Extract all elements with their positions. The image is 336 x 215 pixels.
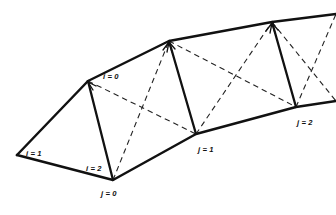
cell1-diagonal-a xyxy=(169,41,296,107)
rib-group xyxy=(88,22,296,180)
label-i-1: i = 1 xyxy=(26,149,42,158)
arrowhead-to-t2-left xyxy=(266,23,272,33)
label-i-0: i = 0 xyxy=(103,72,119,81)
label-j-0: j = 0 xyxy=(100,189,117,198)
lower-boundary-edge xyxy=(17,101,336,180)
label-j-1: j = 1 xyxy=(197,145,214,154)
mesh-diagram: i = 0 i = 1 i = 2 j = 0 j = 1 j = 2 xyxy=(0,0,336,215)
dashed-diagonal-group xyxy=(88,14,336,180)
upper-boundary-edge xyxy=(17,14,336,155)
cell0-diagonal-b xyxy=(113,41,169,180)
cell2-diagonal-b xyxy=(296,14,336,107)
label-j-2: j = 2 xyxy=(296,118,313,127)
diagram-canvas: i = 0 i = 1 i = 2 j = 0 j = 1 j = 2 xyxy=(0,0,336,215)
label-i-2: i = 2 xyxy=(86,164,102,173)
rib-edge-2 xyxy=(272,22,296,107)
rib-edge-1 xyxy=(169,41,196,134)
label-group: i = 0 i = 1 i = 2 j = 0 j = 1 j = 2 xyxy=(26,72,313,198)
